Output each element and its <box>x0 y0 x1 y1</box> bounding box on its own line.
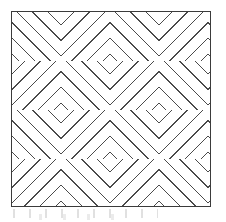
weave-block-0-3 <box>159 12 208 61</box>
weave-block-0-2 <box>110 12 159 61</box>
plate-border <box>11 11 211 207</box>
weave-block-3-4 <box>208 159 210 206</box>
weave-block-3-1 <box>61 159 110 206</box>
weave-block-1-1 <box>61 61 110 110</box>
weave-block-2-0 <box>12 110 61 159</box>
weave-block-3-3 <box>159 159 208 206</box>
weave-block-2-3 <box>159 110 208 159</box>
weave-block-2-4 <box>208 110 210 159</box>
weave-block-1-4 <box>208 61 210 110</box>
weave-block-3-2 <box>110 159 159 206</box>
weave-block-2-1 <box>61 110 110 159</box>
weave-block-0-0 <box>12 12 61 61</box>
weave-block-1-3 <box>159 61 208 110</box>
weave-block-1-2 <box>110 61 159 110</box>
weave-block-0-4 <box>208 12 210 61</box>
scan-artifact-secondary <box>30 214 125 220</box>
weave-block-0-1 <box>61 12 110 61</box>
weave-block-1-0 <box>12 61 61 110</box>
weave-block-3-0 <box>12 159 61 206</box>
hatch-area <box>12 12 210 206</box>
weave-block-2-2 <box>110 110 159 159</box>
figure-canvas <box>0 0 226 222</box>
